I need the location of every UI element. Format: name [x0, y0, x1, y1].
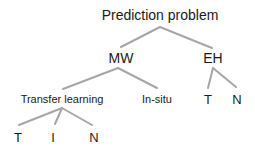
node-transfer-i: I — [51, 131, 55, 144]
edge-root-mw — [121, 27, 160, 47]
node-eh-n: N — [232, 93, 241, 106]
node-transfer-n: N — [89, 131, 98, 144]
edge-mw-transfer — [63, 68, 118, 89]
edge-root-eh — [160, 27, 212, 48]
edge-eh-t — [208, 68, 213, 88]
root-node-label: Prediction problem — [102, 8, 219, 22]
node-in-situ: In-situ — [142, 94, 172, 105]
node-mw: MW — [109, 51, 134, 65]
node-eh-t: T — [204, 93, 212, 106]
edge-eh-n — [213, 68, 236, 87]
node-transfer-learning: Transfer learning — [21, 94, 104, 105]
node-eh: EH — [203, 51, 222, 65]
edge-transfer-n — [62, 108, 92, 125]
edge-mw-insitu — [118, 68, 157, 88]
node-transfer-t: T — [14, 131, 22, 144]
